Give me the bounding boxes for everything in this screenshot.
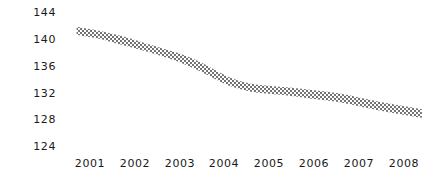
x-axis: 2001 2002 2003 2004 2005 2006 2007 2008 [0, 150, 434, 180]
confidence-band [77, 27, 422, 118]
chart-container: 144 140 136 132 128 124 2001 2002 2003 2… [0, 0, 434, 180]
x-tick-label-2008: 2008 [374, 158, 434, 169]
